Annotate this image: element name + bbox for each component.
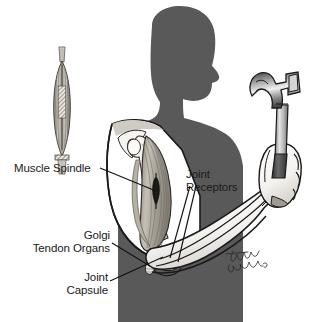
label-joint-capsule-line2: Capsule xyxy=(38,284,108,297)
label-golgi-line1: Golgi xyxy=(18,229,110,242)
cropped-caption xyxy=(0,311,320,322)
muscle-spindle-inset xyxy=(54,47,71,174)
label-joint-capsule: Joint Capsule xyxy=(38,271,108,296)
label-joint-receptors: Joint Receptors xyxy=(186,168,238,193)
label-muscle-spindle: Muscle Spindle xyxy=(14,162,91,175)
label-muscle-spindle-line1: Muscle Spindle xyxy=(14,162,91,175)
label-golgi-line2: Tendon Organs xyxy=(18,242,110,255)
label-joint-receptors-line2: Receptors xyxy=(186,181,238,194)
label-joint-receptors-line1: Joint xyxy=(186,168,238,181)
anatomy-figure: Muscle Spindle Joint Receptors Golgi Ten… xyxy=(0,0,320,322)
label-joint-capsule-line1: Joint xyxy=(38,271,108,284)
label-golgi-tendon-organs: Golgi Tendon Organs xyxy=(18,229,110,254)
